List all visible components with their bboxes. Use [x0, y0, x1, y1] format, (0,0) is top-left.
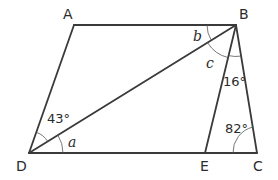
angle-label-adb: 43° [47, 112, 70, 125]
angle-label-b: b [193, 29, 202, 43]
segment-db [29, 25, 236, 153]
angle-label-a: a [68, 135, 76, 149]
point-label-b: B [239, 7, 249, 21]
figure-lines [0, 0, 278, 180]
point-label-d: D [16, 159, 27, 173]
angle-arc-ebc [229, 56, 242, 57]
point-label-a: A [63, 7, 73, 21]
point-label-c: C [253, 159, 263, 173]
angle-label-c: c [206, 56, 214, 70]
geometry-diagram: A B C D E 43° a b c 16° 82° [0, 0, 278, 180]
angle-arc-abd [207, 25, 211, 40]
angle-arc-adb [36, 132, 47, 141]
angle-arc-bdc [58, 135, 63, 153]
angle-label-bce: 82° [225, 122, 248, 135]
angle-label-ebc: 16° [223, 75, 246, 88]
point-label-e: E [200, 159, 209, 173]
